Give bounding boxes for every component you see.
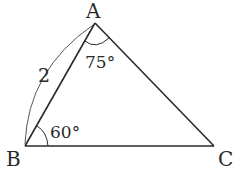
vertex-label-b: B xyxy=(6,147,21,171)
angle-arc-a xyxy=(85,38,109,45)
vertex-label-c: C xyxy=(218,147,233,171)
angle-arc-b xyxy=(37,126,48,146)
angle-label-a: 75° xyxy=(85,52,115,72)
angle-label-b: 60° xyxy=(50,122,80,142)
side-label-ab: 2 xyxy=(38,64,50,86)
vertex-label-a: A xyxy=(85,0,101,23)
side-ca xyxy=(95,23,214,146)
triangle-diagram: A B C 75° 60° 2 xyxy=(0,0,241,172)
